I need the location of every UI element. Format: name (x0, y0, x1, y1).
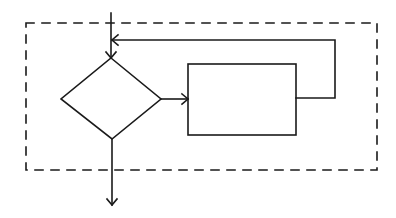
flowchart-diagram (0, 0, 396, 218)
decision-diamond (61, 58, 161, 139)
feedback-loop-line (112, 40, 335, 98)
process-box (188, 64, 296, 135)
loop-boundary (26, 23, 377, 170)
